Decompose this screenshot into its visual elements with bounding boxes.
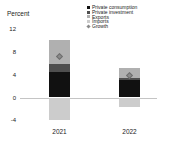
square-marker-icon (87, 20, 90, 23)
bar-segment (49, 98, 70, 121)
y-axis-tick-label: -4 (0, 117, 16, 123)
stacked-bar-chart: Percent 12840-4 20212022 Private consump… (0, 0, 179, 151)
square-marker-icon (87, 11, 90, 14)
y-axis-tick-label: 4 (0, 72, 16, 78)
square-marker-icon (87, 15, 90, 18)
bar-segment (49, 72, 70, 97)
y-axis-title: Percent (7, 10, 29, 17)
bar-segment (49, 64, 70, 72)
y-axis-tick-label: 0 (0, 95, 16, 101)
x-axis-label: 2022 (115, 128, 145, 135)
x-axis-label: 2021 (45, 128, 75, 135)
y-axis-tick-label: 12 (0, 26, 16, 32)
square-marker-icon (87, 6, 90, 9)
bar-segment (119, 80, 140, 97)
y-axis-tick-label: 8 (0, 49, 16, 55)
bar-segment (119, 98, 140, 107)
diamond-marker-icon (86, 24, 90, 28)
legend: Private consumptionPrivate investmentExp… (87, 5, 137, 29)
legend-label: Growth (92, 24, 108, 29)
legend-item: Growth (87, 24, 137, 29)
